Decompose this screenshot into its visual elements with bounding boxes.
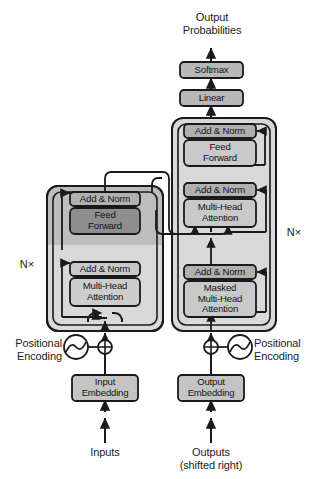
decoder-sine-wave-icon xyxy=(218,335,252,359)
decoder-block-add-norm-3 xyxy=(184,124,256,138)
decoder-block-feed-forward xyxy=(184,140,256,166)
transformer-architecture-diagram: Output Probabilities Softmax Linear Add … xyxy=(0,0,322,479)
output-embedding-block xyxy=(178,375,244,401)
decoder-block-add-norm-2 xyxy=(184,183,256,197)
encoder-positional-sum-icon xyxy=(98,340,112,354)
encoder-block-feed-forward xyxy=(70,208,140,234)
decoder-block-multi-head-attention xyxy=(184,199,256,227)
decoder-positional-sum-icon xyxy=(204,340,218,354)
decoder-positional-encoding-label: Positional Encoding xyxy=(254,337,320,362)
encoder-block-multi-head-attention xyxy=(70,278,140,306)
input-embedding-block xyxy=(72,375,138,401)
encoder-block-add-norm-1 xyxy=(70,262,140,276)
inputs-label: Inputs xyxy=(65,446,145,459)
decoder-repeat-label: N× xyxy=(281,226,307,238)
output-probabilities-label: Output Probabilities xyxy=(157,11,267,36)
encoder-block-add-norm-2 xyxy=(70,192,140,206)
outputs-shifted-right-label: Outputs (shifted right) xyxy=(156,446,266,471)
decoder-block-add-norm-1 xyxy=(184,265,256,279)
decoder-block-masked-multi-head-attention xyxy=(184,281,256,317)
linear-block xyxy=(180,90,243,106)
diagram-canvas xyxy=(0,0,322,479)
encoder-positional-encoding-label: Positional Encoding xyxy=(2,337,62,362)
encoder-repeat-label: N× xyxy=(14,258,40,270)
softmax-block xyxy=(180,62,243,78)
encoder-sine-wave-icon xyxy=(64,335,98,359)
